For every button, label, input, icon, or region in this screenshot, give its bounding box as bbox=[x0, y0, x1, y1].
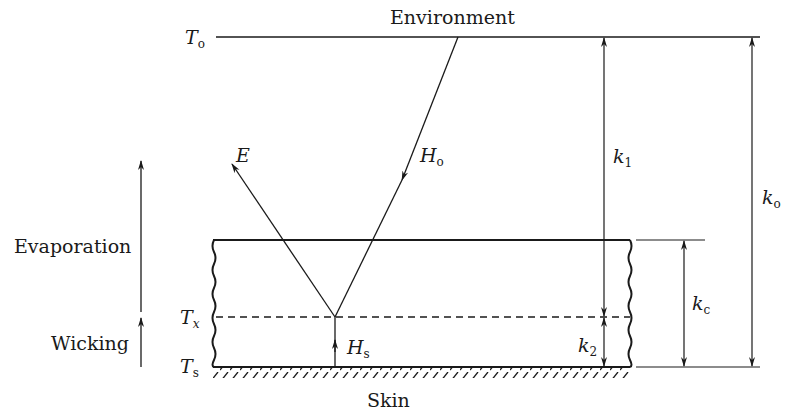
tx-label: Tx bbox=[180, 308, 199, 327]
ho-label: Ho bbox=[420, 146, 444, 165]
k2-label: k2 bbox=[578, 336, 597, 355]
fabric-right-edge bbox=[629, 240, 632, 367]
diagram-canvas bbox=[0, 0, 797, 417]
wicking-label: Wicking bbox=[51, 334, 129, 353]
evaporation-label: Evaporation bbox=[14, 237, 131, 256]
environment-label: Environment bbox=[390, 8, 515, 27]
ho-ray-lower bbox=[335, 180, 402, 317]
ts-label: Ts bbox=[180, 357, 199, 376]
e-label: E bbox=[236, 146, 250, 165]
skin-hatching bbox=[213, 368, 630, 378]
fabric-left-edge bbox=[213, 240, 216, 367]
hs-label: Hs bbox=[347, 338, 370, 357]
to-label: To bbox=[185, 28, 205, 47]
kc-label: kc bbox=[692, 294, 710, 313]
k1-label: k1 bbox=[613, 147, 632, 166]
ko-label: ko bbox=[762, 188, 781, 207]
skin-label: Skin bbox=[367, 391, 410, 410]
